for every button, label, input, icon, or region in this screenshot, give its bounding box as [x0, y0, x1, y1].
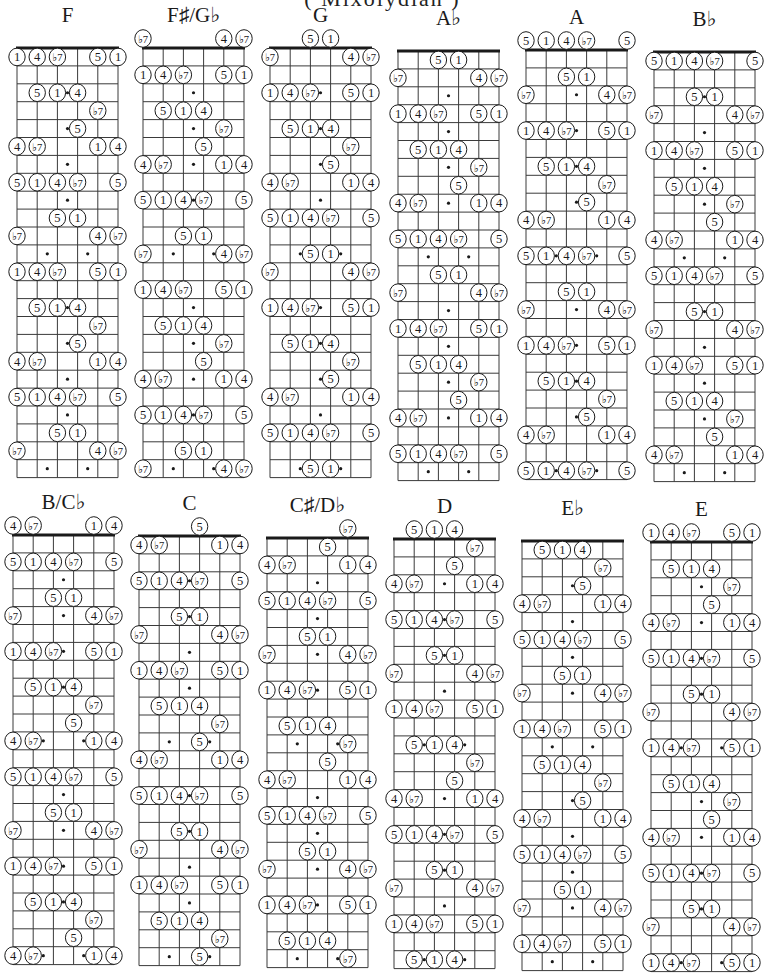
scale-degree-5-note: 5 — [683, 685, 699, 703]
svg-text:5: 5 — [708, 598, 714, 612]
svg-text:♭7: ♭7 — [747, 707, 757, 718]
svg-text:4: 4 — [668, 741, 675, 755]
scale-degree-5-note: 5 — [663, 560, 679, 578]
svg-text:♭7: ♭7 — [706, 868, 716, 879]
scale-degree-b7-note: ♭7 — [683, 954, 699, 972]
svg-text:1: 1 — [708, 902, 714, 916]
svg-text:♭7: ♭7 — [686, 958, 696, 969]
svg-text:1: 1 — [648, 741, 654, 755]
scale-degree-4-note: 4 — [663, 524, 679, 542]
svg-text:5: 5 — [688, 687, 694, 701]
svg-text:4: 4 — [729, 920, 736, 934]
svg-text:5: 5 — [668, 562, 674, 576]
scale-degree-5-note: 5 — [744, 650, 760, 668]
svg-text:♭7: ♭7 — [727, 797, 737, 808]
fret-marker-dot — [680, 961, 683, 964]
scale-degree-5-note: 5 — [703, 596, 719, 614]
scale-degree-5-note: 5 — [724, 954, 740, 972]
svg-text:1: 1 — [749, 956, 755, 970]
svg-text:5: 5 — [729, 526, 735, 540]
svg-text:5: 5 — [648, 866, 654, 880]
scale-degree-b7-note: ♭7 — [663, 614, 679, 632]
svg-text:4: 4 — [668, 956, 675, 970]
scale-degree-4-note: 4 — [724, 703, 740, 721]
scale-degree-4-note: 4 — [703, 560, 719, 578]
svg-text:5: 5 — [648, 652, 654, 666]
scale-degree-1-note: 1 — [744, 739, 760, 757]
fret-marker-dot — [700, 872, 703, 875]
scale-degree-1-note: 1 — [744, 954, 760, 972]
scale-degree-1-note: 1 — [724, 614, 740, 632]
svg-text:1: 1 — [708, 687, 714, 701]
fret-marker-dot — [720, 746, 723, 749]
scale-degree-1-note: 1 — [643, 739, 659, 757]
svg-text:♭7: ♭7 — [706, 654, 716, 665]
svg-text:♭7: ♭7 — [666, 833, 676, 844]
svg-text:1: 1 — [749, 526, 755, 540]
svg-text:4: 4 — [688, 652, 695, 666]
scale-degree-1-note: 1 — [724, 829, 740, 847]
scale-degree-b7-note: ♭7 — [744, 703, 760, 721]
scale-degree-1-note: 1 — [744, 524, 760, 542]
scale-degree-4-note: 4 — [744, 829, 760, 847]
svg-text:1: 1 — [688, 777, 694, 791]
svg-text:4: 4 — [749, 831, 756, 845]
svg-text:4: 4 — [749, 616, 756, 630]
scale-degree-b7-note: ♭7 — [683, 739, 699, 757]
scale-degree-5-note: 5 — [643, 864, 659, 882]
scale-degree-5-note: 5 — [724, 524, 740, 542]
scale-degree-5-note: 5 — [643, 650, 659, 668]
svg-text:♭7: ♭7 — [747, 922, 757, 933]
svg-text:5: 5 — [688, 902, 694, 916]
scale-degree-4-note: 4 — [643, 829, 659, 847]
fretboard-diagram: 14♭751514♭754♭714514♭7551♭74♭714♭751514♭… — [0, 0, 765, 973]
scale-degree-4-note: 4 — [724, 918, 740, 936]
scale-degree-1-note: 1 — [683, 775, 699, 793]
scale-degree-4-note: 4 — [663, 739, 679, 757]
svg-text:5: 5 — [729, 956, 735, 970]
svg-text:♭7: ♭7 — [666, 618, 676, 629]
svg-text:1: 1 — [749, 741, 755, 755]
svg-text:♭7: ♭7 — [727, 582, 737, 593]
fret-marker-dot — [700, 907, 703, 910]
svg-text:5: 5 — [729, 741, 735, 755]
fret-marker-dot — [700, 800, 703, 803]
scale-degree-b7-note: ♭7 — [703, 864, 719, 882]
scale-degree-4-note: 4 — [643, 614, 659, 632]
svg-text:♭7: ♭7 — [646, 707, 656, 718]
scale-degree-4-note: 4 — [744, 614, 760, 632]
scale-degree-1-note: 1 — [663, 864, 679, 882]
scale-degree-4-note: 4 — [683, 650, 699, 668]
svg-text:1: 1 — [729, 616, 735, 630]
scale-degree-4-note: 4 — [703, 775, 719, 793]
svg-text:1: 1 — [668, 866, 674, 880]
scale-degree-5-note: 5 — [663, 775, 679, 793]
svg-text:4: 4 — [688, 866, 695, 880]
svg-text:4: 4 — [648, 616, 655, 630]
svg-text:5: 5 — [708, 813, 714, 827]
svg-text:1: 1 — [668, 652, 674, 666]
scale-degree-b7-note: ♭7 — [703, 650, 719, 668]
fret-marker-dot — [700, 657, 703, 660]
scale-degree-b7-note: ♭7 — [643, 703, 659, 721]
scale-degree-b7-note: ♭7 — [724, 793, 740, 811]
scale-degree-5-note: 5 — [724, 739, 740, 757]
scale-degree-4-note: 4 — [663, 954, 679, 972]
scale-degree-5-note: 5 — [744, 864, 760, 882]
svg-text:1: 1 — [729, 831, 735, 845]
svg-text:♭7: ♭7 — [646, 922, 656, 933]
scale-degree-1-note: 1 — [643, 524, 659, 542]
scale-degree-5-note: 5 — [703, 811, 719, 829]
fret-marker-dot — [700, 836, 703, 839]
svg-text:5: 5 — [668, 777, 674, 791]
fret-marker-dot — [720, 961, 723, 964]
scale-degree-1-note: 1 — [663, 650, 679, 668]
scale-degree-b7-note: ♭7 — [643, 918, 659, 936]
svg-text:1: 1 — [688, 562, 694, 576]
svg-text:4: 4 — [668, 526, 675, 540]
scale-degree-5-note: 5 — [683, 900, 699, 918]
fret-marker-dot — [700, 693, 703, 696]
svg-text:♭7: ♭7 — [686, 528, 696, 539]
svg-text:4: 4 — [648, 831, 655, 845]
svg-text:5: 5 — [749, 866, 755, 880]
